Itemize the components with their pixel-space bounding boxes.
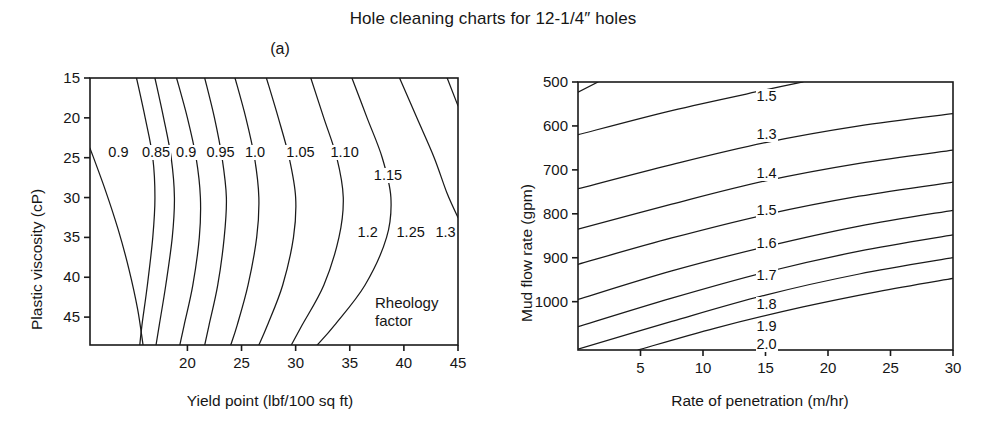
panel-a-annotation: Rheology factor (375, 294, 438, 330)
panel-a-x-tick-label: 30 (271, 354, 321, 371)
panel-a-x-tick-label: 40 (379, 354, 429, 371)
panel-b-x-tick-label: 20 (803, 359, 853, 376)
panel-a-contour-label: 1.0 (244, 145, 266, 160)
chart-panel-b: (b) 5101520253010009008007006005001.51.3… (490, 0, 986, 433)
panel-b-y-axis-title: Mud flow rate (gpm) (518, 184, 536, 322)
panel-a-contour-label: 1.3 (435, 225, 457, 240)
panel-a-y-tick-label: 20 (24, 109, 80, 126)
panel-b-y-tick-label: 600 (512, 117, 568, 134)
panel-a-x-axis-title: Yield point (lbf/100 sq ft) (70, 392, 470, 410)
panel-a-contour-label: 0.85 (141, 145, 171, 160)
panel-b-contour-label: 1.9 (756, 319, 778, 334)
figure-container: Hole cleaning charts for 12-1/4″ holes (… (0, 0, 986, 433)
panel-b-y-tick-label: 500 (512, 73, 568, 90)
panel-b-contour-label: 1.4 (756, 166, 778, 181)
panel-a-y-tick-label: 15 (24, 69, 80, 86)
panel-a-y-tick-label: 30 (24, 189, 80, 206)
panel-b-contour-label: 2.0 (756, 337, 778, 352)
panel-a-x-tick-label: 45 (433, 354, 483, 371)
panel-b-contour-label: 1.3 (756, 127, 778, 142)
panel-a-contour-label: 1.25 (396, 225, 426, 240)
panel-b-x-tick-label: 15 (741, 359, 791, 376)
panel-a-x-tick-label: 25 (217, 354, 267, 371)
annotation-line-1: Rheology (375, 294, 438, 312)
panel-b-x-tick-label: 5 (616, 359, 666, 376)
panel-a-y-tick-label: 25 (24, 149, 80, 166)
panel-b-y-tick-label: 700 (512, 161, 568, 178)
panel-b-contour-label: 1.7 (756, 268, 778, 283)
panel-a-x-tick-label: 35 (325, 354, 375, 371)
panel-b-x-tick-label: 10 (678, 359, 728, 376)
panel-a-y-tick-label: 40 (24, 268, 80, 285)
panel-b-x-tick-label: 30 (928, 359, 978, 376)
panel-a-contour-label: 0.9 (175, 145, 197, 160)
panel-a-contour-label: 0.9 (107, 145, 129, 160)
panel-b-contour-label: 1.8 (756, 297, 778, 312)
panel-a-contour-label: 1.10 (330, 145, 360, 160)
panel-a-y-tick-label: 35 (24, 228, 80, 245)
panel-b-contour-label: 1.5 (756, 89, 778, 104)
panel-a-contour-label: 1.05 (285, 145, 315, 160)
panel-a-contour-label: 1.2 (357, 225, 379, 240)
panel-a-contour-label: 0.95 (205, 145, 235, 160)
panel-b-contour-label: 1.5 (756, 203, 778, 218)
panel-a-contour-label: 1.15 (373, 168, 403, 183)
panel-a-y-tick-label: 45 (24, 308, 80, 325)
chart-panel-a: (a) Yield point (lbf/100 sq ft) Plastic … (0, 0, 490, 433)
panel-b-x-tick-label: 25 (866, 359, 916, 376)
annotation-line-2: factor (375, 312, 438, 330)
panel-b-contour-label: 1.6 (756, 236, 778, 251)
panel-a-x-tick-label: 20 (162, 354, 212, 371)
panel-b-x-axis-title: Rate of penetration (m/hr) (560, 392, 960, 410)
